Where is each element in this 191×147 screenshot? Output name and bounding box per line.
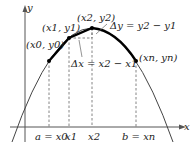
point-x0 — [47, 59, 51, 63]
x-axis-label: x — [184, 122, 190, 132]
delta-y-label: Δy = y2 − y1 — [110, 21, 176, 31]
tick-label-x2: x2 — [88, 132, 100, 142]
point-label-x1: (x1, y1) — [42, 23, 80, 33]
point-label-xn: (xn, yn) — [139, 53, 177, 63]
point-label-x0: (x0, y0) — [26, 40, 64, 50]
tick-label-b: b = xn — [122, 132, 155, 142]
delta-x-label: Δx = x2 − x1 — [71, 59, 137, 69]
point-x2 — [90, 26, 94, 30]
y-axis-label: y — [27, 3, 33, 13]
arc-length-diagram: y x (x0, y0) (x1, y1) (x2, y2) (xn, yn) … — [0, 0, 191, 147]
tick-label-a: a = x0 — [35, 132, 68, 142]
delta-x-pointer — [79, 40, 82, 57]
tick-label-x1: x1 — [65, 132, 77, 142]
point-x1 — [67, 36, 71, 40]
